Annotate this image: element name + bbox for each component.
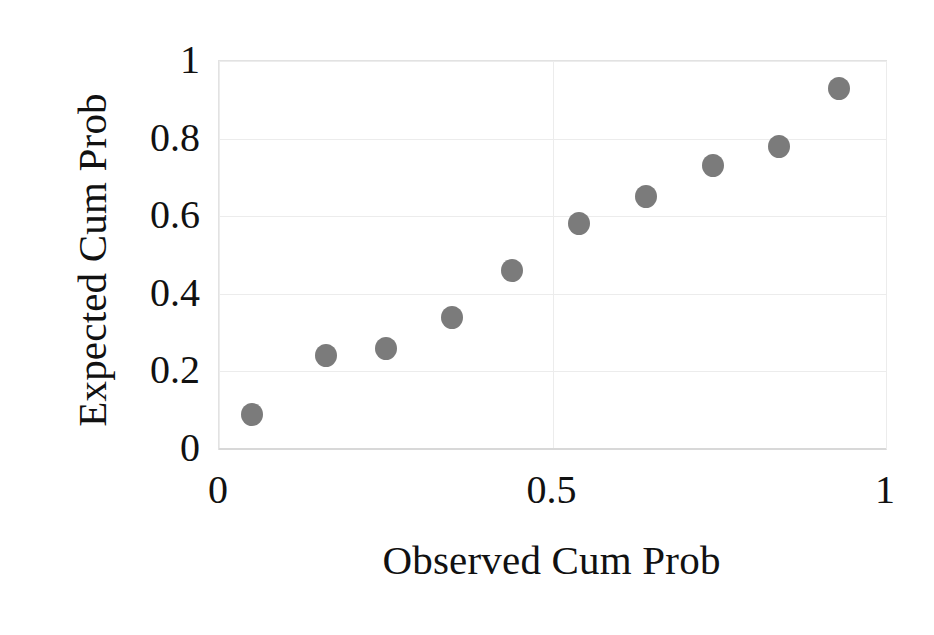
x-tick-label-0: 0 <box>208 470 228 510</box>
data-point <box>241 403 263 426</box>
x-axis-title: Observed Cum Prob <box>218 540 885 581</box>
pp-plot-figure: Expected Cum Prob 00.20.40.60.81 00.51 O… <box>0 0 934 635</box>
data-point <box>501 259 523 282</box>
x-tick-label-1: 1 <box>875 470 895 510</box>
data-point <box>441 306 463 329</box>
x-tick-label-0.5: 0.5 <box>527 470 577 510</box>
gridline-x-1 <box>886 61 887 449</box>
data-point <box>828 77 850 100</box>
data-point <box>768 135 790 158</box>
data-point <box>702 154 724 177</box>
data-point <box>315 344 337 367</box>
data-point <box>375 337 397 360</box>
data-point <box>635 185 657 208</box>
plot-area <box>218 60 887 450</box>
data-point <box>568 212 590 235</box>
scatter-series <box>219 61 886 449</box>
